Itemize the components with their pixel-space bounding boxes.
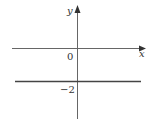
y-tick-label-minus-2: −2 — [60, 84, 75, 95]
y-axis-arrow-icon — [75, 5, 81, 13]
x-axis-label: x — [139, 48, 145, 59]
origin-label: 0 — [67, 51, 73, 62]
y-axis-label: y — [66, 5, 73, 16]
chart: y x 0 −2 — [0, 0, 153, 128]
